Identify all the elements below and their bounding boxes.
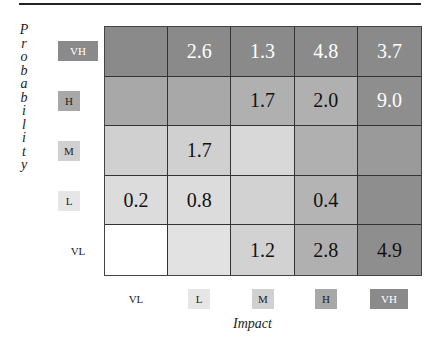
row-label-vl: VL [58,241,98,261]
col-label-m: M [252,289,274,309]
heatmap-cell-l-m [231,176,294,226]
heatmap-cell-vh-l: 2.6 [168,27,231,77]
y-axis-letter: b [17,64,31,78]
row-label-m: M [58,141,80,161]
y-axis-letter: l [17,118,31,132]
heatmap-cell-m-vl [105,126,168,176]
y-axis-letter: i [17,131,31,145]
heatmap-cell-vl-m: 1.2 [231,225,294,275]
heatmap-cell-vl-l [168,225,231,275]
heatmap-cell-l-l: 0.8 [168,176,231,226]
heatmap-cell-vl-vh: 4.9 [358,225,421,275]
row-label-h: H [58,91,80,111]
heatmap-cell-l-h: 0.4 [295,176,358,226]
heatmap-cell-vl-h: 2.8 [295,225,358,275]
heatmap-cell-vh-vl [105,27,168,77]
heatmap-cell-vh-m: 1.3 [231,27,294,77]
y-axis-letter: P [17,23,31,37]
heatmap-cell-m-vh [358,126,421,176]
heatmap-cell-h-l [168,77,231,127]
y-axis-label: Probability [17,23,31,172]
heatmap-cell-h-m: 1.7 [231,77,294,127]
heatmap-cell-vl-vl [105,225,168,275]
heatmap-cell-h-vl [105,77,168,127]
y-axis-letter: t [17,145,31,159]
heatmap-cell-l-vl: 0.2 [105,176,168,226]
heatmap-cell-vh-h: 4.8 [295,27,358,77]
heatmap-cell-m-m [231,126,294,176]
y-axis-letter: r [17,37,31,51]
heatmap-cell-h-vh: 9.0 [358,77,421,127]
col-label-l: L [188,289,210,309]
risk-heatmap-grid: 2.61.34.83.71.72.09.01.70.20.80.41.22.84… [104,26,422,276]
heatmap-cell-l-vh [358,176,421,226]
col-label-vh: VH [370,289,408,309]
heatmap-cell-m-l: 1.7 [168,126,231,176]
heatmap-cell-vh-vh: 3.7 [358,27,421,77]
x-axis-label: Impact [233,316,272,332]
row-label-l: L [58,191,80,211]
heatmap-cell-h-h: 2.0 [295,77,358,127]
y-axis-letter: a [17,77,31,91]
y-axis-letter: y [17,158,31,172]
y-axis-letter: b [17,91,31,105]
col-label-h: H [315,289,337,309]
heatmap-cell-m-h [295,126,358,176]
top-rule [19,3,421,5]
y-axis-letter: o [17,50,31,64]
row-label-vh: VH [58,41,98,61]
y-axis-letter: i [17,104,31,118]
col-label-vl: VL [124,289,148,309]
